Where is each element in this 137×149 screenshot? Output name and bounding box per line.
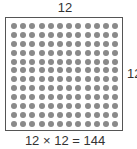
dot [112,23,118,29]
dot [66,76,72,82]
dot [94,41,100,47]
dot [11,59,17,65]
dot [112,50,118,56]
dot [66,85,72,91]
dot [48,59,54,65]
dot [75,112,81,118]
dot [75,85,81,91]
dot [57,67,63,73]
dot [48,121,54,127]
dot [75,103,81,109]
dot [29,94,35,100]
dot [11,41,17,47]
dot [57,23,63,29]
dot [103,121,109,127]
dot [112,103,118,109]
dot [11,67,17,73]
dot [20,112,26,118]
dot [85,121,91,127]
dot [48,76,54,82]
dot [48,41,54,47]
dot [85,50,91,56]
dot [94,103,100,109]
dot [75,94,81,100]
dot [103,50,109,56]
dot [112,41,118,47]
dot [20,103,26,109]
dot [85,32,91,38]
dot [103,41,109,47]
dot [48,112,54,118]
dot [39,50,45,56]
dot [48,103,54,109]
dot [39,32,45,38]
dot [103,67,109,73]
dot [94,85,100,91]
dot [11,103,17,109]
dot [112,94,118,100]
dot [103,85,109,91]
dot [75,23,81,29]
dot [11,112,17,118]
dot [29,41,35,47]
dot [66,32,72,38]
dot [85,67,91,73]
height-label: 12 [127,66,137,82]
dot [20,59,26,65]
dot [103,23,109,29]
dot [85,59,91,65]
dot [94,112,100,118]
dot [112,85,118,91]
dot [94,23,100,29]
dot [39,112,45,118]
dot [85,94,91,100]
dot [11,23,17,29]
dot [39,103,45,109]
dot [29,59,35,65]
dot [66,103,72,109]
dot [20,94,26,100]
dot [57,112,63,118]
dot [85,23,91,29]
dot [66,41,72,47]
dot [66,59,72,65]
dot [94,121,100,127]
dot [29,23,35,29]
dot [48,50,54,56]
dot [29,76,35,82]
dot [39,85,45,91]
dot [75,50,81,56]
dot [57,50,63,56]
dot [94,76,100,82]
dot [20,85,26,91]
dot [103,76,109,82]
dot [57,103,63,109]
dot [75,32,81,38]
dot [112,59,118,65]
dot [39,94,45,100]
dot [66,112,72,118]
dot [57,41,63,47]
dot [20,23,26,29]
dot [103,103,109,109]
dot [20,32,26,38]
dot [75,41,81,47]
dot [112,121,118,127]
dot [66,50,72,56]
dot [29,112,35,118]
dot [48,85,54,91]
dot [94,32,100,38]
dot [11,32,17,38]
dot [94,59,100,65]
width-label: 12 [5,0,125,16]
dot [11,85,17,91]
dot [85,85,91,91]
dot [75,59,81,65]
dot [85,103,91,109]
dot [103,32,109,38]
dot [20,67,26,73]
dot [66,23,72,29]
dot-array-box [5,17,123,131]
dot [20,50,26,56]
dot [112,32,118,38]
